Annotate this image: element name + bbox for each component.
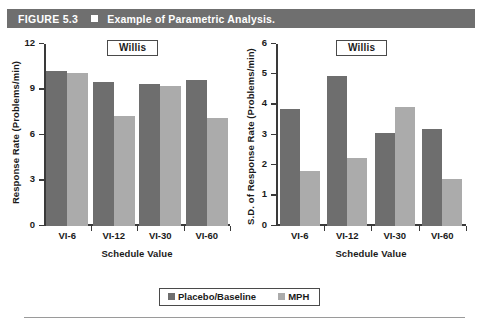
chart-panel-right: S.D. of Response Rate (Problems/min) Wil… [238, 34, 480, 282]
y-axis-tick-label-left: 12 [24, 37, 35, 48]
x-axis-tick-label: VI-30 [137, 230, 184, 241]
x-axis-tick-label: VI-30 [371, 230, 419, 241]
legend-entry: Placebo/Baseline [168, 291, 256, 302]
y-axis-tick-label-left: 9 [30, 82, 35, 93]
y-axis-tick-label-right: 3 [262, 128, 267, 139]
bar-group [419, 44, 467, 226]
bar [67, 73, 88, 226]
bar-group [371, 44, 419, 226]
y-axis-tick-right: 0 [271, 225, 276, 226]
bar [114, 116, 135, 226]
bar [327, 76, 347, 226]
y-axis-tick-label-left: 0 [30, 219, 35, 230]
x-axis-tick-label: VI-6 [276, 230, 324, 241]
x-axis-tick-label: VI-6 [44, 230, 91, 241]
chart-panel-left: Response Rate (Problems/min) Willis 0369… [4, 34, 240, 282]
y-axis-tick-left: 12 [39, 43, 44, 44]
legend-swatch-icon [278, 293, 285, 300]
y-axis-title-left: Response Rate (Problems/min) [8, 34, 24, 230]
x-axis-tick-right [466, 226, 467, 231]
y-axis-tick-left: 9 [39, 88, 44, 89]
y-axis-tick-label-right: 2 [262, 158, 267, 169]
bar [186, 80, 207, 226]
y-axis-tick-left: 0 [39, 225, 44, 226]
legend-swatch-icon [168, 293, 175, 300]
x-axis-tick-left [230, 226, 231, 231]
bar [93, 82, 114, 226]
chart-legend: Placebo/BaselineMPH [159, 288, 320, 306]
bar-group [44, 44, 91, 226]
y-axis-tick-label-right: 0 [262, 219, 267, 230]
bar [280, 109, 300, 226]
figure-caption-bar: FIGURE 5.3 Example of Parametric Analysi… [7, 9, 475, 28]
bar-group [276, 44, 324, 226]
y-axis-tick-label-left: 3 [30, 173, 35, 184]
legend-label: MPH [288, 291, 309, 302]
x-axis-tick-label: VI-60 [419, 230, 467, 241]
bar [160, 86, 181, 226]
bar-group [91, 44, 138, 226]
x-axis-tick-labels-right: VI-6VI-12VI-30VI-60 [276, 230, 466, 241]
y-axis-tick-right: 2 [271, 164, 276, 165]
y-axis-tick-label-right: 6 [262, 37, 267, 48]
bar-groups-right [276, 44, 466, 226]
x-axis-title-left: Schedule Value [44, 248, 230, 259]
legend-label: Placebo/Baseline [178, 291, 256, 302]
bar [395, 107, 415, 226]
bar-groups-left [44, 44, 230, 226]
y-axis-tick-right: 3 [271, 134, 276, 135]
x-axis-tick-label: VI-12 [91, 230, 138, 241]
bar-group [184, 44, 231, 226]
x-axis-tick-label: VI-60 [184, 230, 231, 241]
page-divider-rule [24, 317, 465, 318]
y-axis-tick-left: 6 [39, 134, 44, 135]
y-axis-tick-left: 3 [39, 179, 44, 180]
bar [375, 133, 395, 226]
x-axis-title-right: Schedule Value [276, 248, 466, 259]
bar [347, 158, 367, 226]
plot-area-left: 036912 [44, 44, 230, 226]
bar [46, 71, 67, 226]
bar-group [324, 44, 372, 226]
bar [300, 171, 320, 227]
bar [442, 179, 462, 226]
legend-entry: MPH [278, 291, 309, 302]
y-axis-tick-right: 4 [271, 103, 276, 104]
y-axis-tick-right: 1 [271, 194, 276, 195]
bar [139, 84, 160, 226]
y-axis-tick-label-right: 5 [262, 67, 267, 78]
figure-title: Example of Parametric Analysis. [107, 13, 275, 25]
square-bullet-icon [91, 15, 98, 22]
y-axis-tick-label-right: 4 [262, 97, 267, 108]
plot-area-right: 0123456 [276, 44, 466, 226]
bar [207, 118, 228, 226]
y-axis-tick-label-right: 1 [262, 188, 267, 199]
x-axis-tick-label: VI-12 [324, 230, 372, 241]
y-axis-tick-label-left: 6 [30, 128, 35, 139]
y-axis-title-right: S.D. of Response Rate (Problems/min) [242, 34, 258, 239]
bar-group [137, 44, 184, 226]
x-axis-tick-labels-left: VI-6VI-12VI-30VI-60 [44, 230, 230, 241]
bar [422, 129, 442, 226]
figure-number: FIGURE 5.3 [18, 13, 78, 25]
y-axis-tick-right: 6 [271, 43, 276, 44]
y-axis-tick-right: 5 [271, 73, 276, 74]
